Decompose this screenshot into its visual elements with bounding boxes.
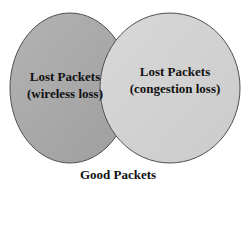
congestion-loss-label: Lost Packets (congestion loss) [122, 63, 228, 97]
congestion-loss-title: Lost Packets [122, 63, 228, 80]
wireless-loss-label: Lost Packets (wireless loss) [14, 68, 116, 102]
good-packets-label: Good Packets [68, 166, 168, 183]
wireless-loss-title: Lost Packets [14, 68, 116, 85]
wireless-loss-subtitle: (wireless loss) [14, 85, 116, 102]
congestion-loss-subtitle: (congestion loss) [122, 80, 228, 97]
